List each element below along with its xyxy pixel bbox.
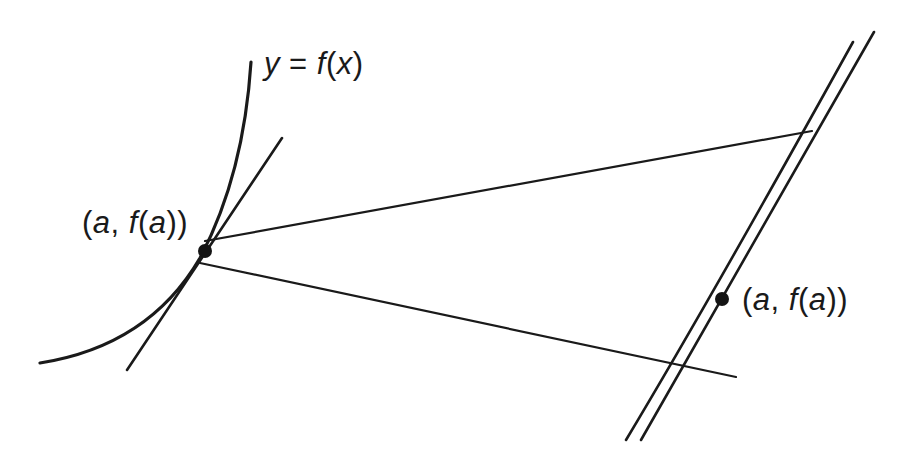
paren-close: )) xyxy=(167,205,189,240)
paren-open-inner: ( xyxy=(138,205,149,240)
secant-line-upper xyxy=(205,131,812,241)
point-label-right: (a, f(a)) xyxy=(742,284,848,315)
paren-open-inner: ( xyxy=(798,282,809,317)
point-label-left: (a, f(a)) xyxy=(82,207,188,238)
comma: , xyxy=(771,282,789,317)
curve-label-close: ) xyxy=(353,46,364,81)
function-curve-magnified xyxy=(626,42,853,440)
var-a-inner: a xyxy=(809,282,827,317)
point-a-right xyxy=(715,292,729,306)
curve-label-open: ( xyxy=(326,46,337,81)
paren-open: ( xyxy=(742,282,753,317)
func-f: f xyxy=(789,282,798,317)
var-a: a xyxy=(93,205,111,240)
curve-label-eq: = xyxy=(280,46,317,81)
curve-label-x: x xyxy=(337,46,353,81)
curve-label-y: y xyxy=(264,46,280,81)
paren-close: )) xyxy=(827,282,849,317)
tangent-line-right xyxy=(641,32,874,440)
var-a-inner: a xyxy=(149,205,167,240)
secant-line-lower xyxy=(200,263,736,377)
point-a-left xyxy=(198,244,212,258)
curve-label: y = f(x) xyxy=(264,48,364,79)
curve-label-f: f xyxy=(317,46,326,81)
var-a: a xyxy=(753,282,771,317)
func-f: f xyxy=(129,205,138,240)
comma: , xyxy=(111,205,129,240)
paren-open: ( xyxy=(82,205,93,240)
